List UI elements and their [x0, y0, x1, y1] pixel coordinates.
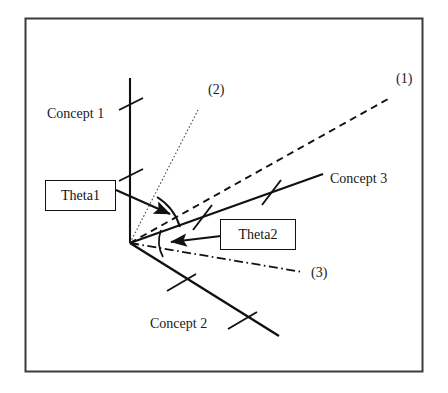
- callout-box-theta2: Theta2: [220, 219, 296, 250]
- callout-label-theta1: Theta1: [61, 188, 100, 204]
- axis-label-concept-1: Concept 1: [47, 107, 104, 121]
- axis-label-concept-3: Concept 3: [330, 172, 387, 186]
- callout-box-theta1: Theta1: [45, 180, 116, 211]
- vector-label-3: (3): [311, 266, 327, 280]
- vector-label-1: (1): [396, 72, 412, 86]
- figure-container: Concept 1 Concept 2 Concept 3 (1) (2) (3…: [0, 0, 448, 393]
- axis-label-concept-2: Concept 2: [150, 317, 207, 331]
- vector-label-2: (2): [208, 83, 224, 97]
- callout-label-theta2: Theta2: [239, 227, 278, 243]
